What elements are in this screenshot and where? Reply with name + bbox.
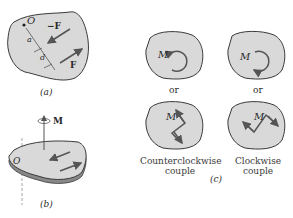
cw-circle-body xyxy=(228,31,285,79)
label-m-ccw-couple: M xyxy=(165,111,177,122)
ccw-caption-line2: couple xyxy=(140,166,220,176)
ccw-caption: Counterclockwise couple xyxy=(140,156,220,176)
label-m-ccw: M xyxy=(157,49,169,60)
cw-caption-line2: couple xyxy=(228,166,288,176)
label-moment-b: M xyxy=(53,116,63,126)
label-d: d xyxy=(40,53,45,62)
label-m-cw-couple: M xyxy=(253,111,265,122)
ccw-couple-body xyxy=(146,102,203,149)
label-force: F xyxy=(70,60,77,70)
label-neg-force: −F xyxy=(47,21,62,31)
caption-b: (b) xyxy=(40,199,53,209)
caption-a: (a) xyxy=(40,87,53,97)
panel-b-body xyxy=(9,116,86,205)
label-origin-b: O xyxy=(13,156,21,166)
label-a: a xyxy=(27,35,32,44)
cw-caption-line1: Clockwise xyxy=(228,156,288,166)
cw-couple-body xyxy=(228,102,285,149)
label-m-cw: M xyxy=(239,51,251,62)
ccw-caption-line1: Counterclockwise xyxy=(140,156,220,166)
couple-diagram: O a d −F F (a) M O (b) M M or or M xyxy=(0,0,293,218)
origin-point-a xyxy=(22,23,25,26)
cw-caption: Clockwise couple xyxy=(228,156,288,176)
label-origin-a: O xyxy=(27,15,35,26)
ccw-circle-body xyxy=(146,32,203,79)
or-left: or xyxy=(169,85,179,95)
or-right: or xyxy=(253,85,263,95)
